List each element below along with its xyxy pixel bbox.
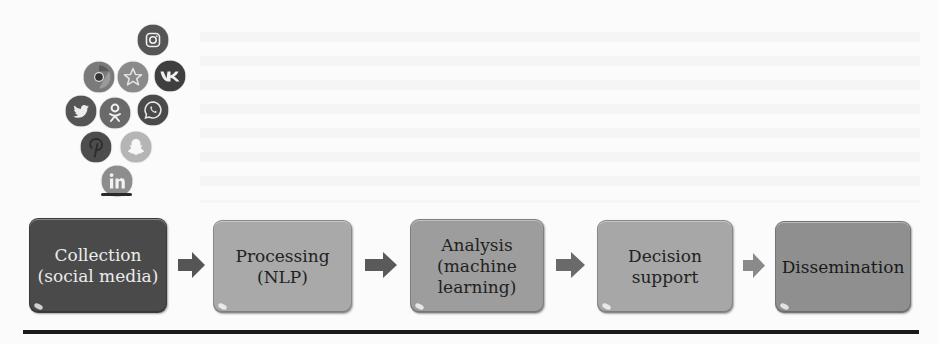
odnoklassniki-icon: [100, 98, 131, 129]
arrow-right-icon: [556, 252, 585, 278]
step-label: Dissemination: [779, 257, 908, 278]
pinterest-icon: [81, 132, 112, 163]
background-texture: [200, 18, 920, 203]
step-collection: Collection (social media): [29, 218, 167, 313]
linkedin-icon-base: [101, 193, 132, 196]
vk-icon: [155, 61, 186, 92]
whatsapp-icon: [138, 95, 169, 126]
step-label: Decision support: [625, 246, 705, 288]
star-icon: [118, 62, 149, 93]
arrow-right-icon: [365, 252, 397, 278]
step-processing: Processing (NLP): [213, 220, 352, 313]
arrow-right-icon: [178, 252, 205, 278]
snapchat-icon: [121, 132, 152, 163]
linkedin-icon: [102, 166, 133, 197]
step-label: Processing (NLP): [232, 246, 332, 288]
chrome-icon: [84, 62, 115, 93]
twitter-icon: [66, 96, 97, 127]
step-analysis: Analysis (machine learning): [410, 219, 544, 313]
step-label: Analysis (machine learning): [434, 235, 520, 298]
arrow-right-icon: [743, 253, 765, 278]
horizontal-rule: [23, 330, 919, 334]
step-dissemination: Dissemination: [775, 221, 911, 313]
step-label: Collection (social media): [35, 245, 162, 287]
instagram-icon: [138, 25, 169, 56]
step-decision-support: Decision support: [597, 220, 733, 313]
